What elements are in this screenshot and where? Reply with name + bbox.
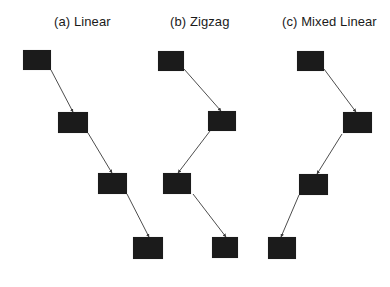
panel-b-node-2 bbox=[208, 111, 236, 131]
panel-c-title: (c) Mixed Linear bbox=[282, 14, 377, 29]
panel-a-arrow-2 bbox=[88, 133, 112, 173]
panel-c-node-1 bbox=[297, 51, 324, 71]
panel-a-arrow-3 bbox=[127, 194, 149, 237]
panel-a-title: (a) Linear bbox=[54, 14, 111, 29]
panel-a-arrow-1 bbox=[51, 70, 73, 112]
panel-c-arrow-1 bbox=[324, 69, 356, 112]
panel-c-node-3 bbox=[299, 174, 328, 195]
panel-a-node-4 bbox=[133, 237, 163, 259]
panel-b-arrow-3 bbox=[193, 194, 226, 237]
panel-c-node-2 bbox=[343, 112, 372, 133]
edges-layer bbox=[0, 0, 390, 287]
panel-b-arrow-1 bbox=[184, 69, 221, 111]
panel-b-node-3 bbox=[163, 173, 191, 194]
panel-b-title: (b) Zigzag bbox=[170, 14, 230, 29]
panel-c-arrow-2 bbox=[317, 134, 342, 174]
panel-a-node-3 bbox=[98, 173, 127, 194]
panel-b-node-1 bbox=[158, 51, 184, 71]
panel-a-node-2 bbox=[58, 112, 88, 133]
panel-b-arrow-2 bbox=[178, 131, 210, 173]
panel-a-node-1 bbox=[23, 50, 51, 70]
panel-c-arrow-3 bbox=[281, 195, 299, 237]
panel-c-node-4 bbox=[268, 237, 296, 259]
panel-b-node-4 bbox=[212, 237, 238, 258]
